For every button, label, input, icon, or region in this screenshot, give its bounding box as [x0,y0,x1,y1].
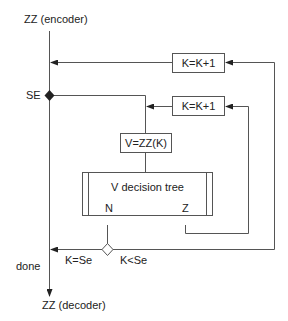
flowchart-connectors [0,0,288,321]
assign-box: V=ZZ(K) [120,133,172,153]
increment-inner-box: K=K+1 [172,96,225,116]
tree-left-bar [88,173,95,215]
tree-right-bar [200,173,207,215]
decision-tree-title: V decision tree [83,181,212,193]
start-label: ZZ (encoder) [24,13,88,26]
decision-tree-box: V decision tree N Z [82,172,213,216]
compare-diamond-icon [102,244,113,256]
se-junction-icon [45,90,55,101]
end-label: ZZ (decoder) [42,299,106,312]
branch-less-label: K<Se [120,254,147,267]
done-label: done [16,260,40,273]
branch-equal-label: K=Se [65,254,92,267]
tree-port-z: Z [182,202,189,214]
outer-loop-line [110,63,275,250]
increment-outer-box: K=K+1 [172,53,225,73]
se-to-assign-line [50,96,146,134]
se-label: SE [26,89,41,102]
tree-port-n: N [105,202,113,214]
